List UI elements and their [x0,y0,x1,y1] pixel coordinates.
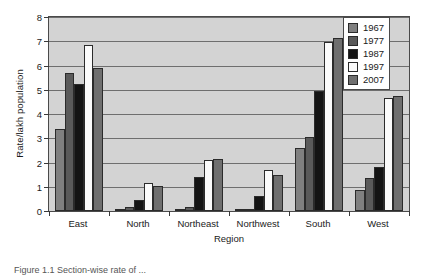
bar-northeast-1967 [175,209,185,211]
legend-label: 1977 [363,36,384,46]
x-axis-tick-label-east: East [68,218,87,229]
y-axis-tick-label: 3 [25,133,42,144]
gridline [49,114,409,115]
figure-caption: Figure 1.1 Section-wise rate of ... [14,265,146,275]
y-axis-tick-label: 4 [25,109,42,120]
y-axis-tick-mark [44,66,49,67]
legend-swatch-icon [348,75,358,85]
x-axis-tick-mark [49,211,50,216]
bar-south-1987 [314,91,324,211]
x-axis-title: Region [48,233,410,244]
legend-swatch-icon [348,49,358,59]
x-axis-tick-mark [349,211,350,216]
bar-east-1977 [65,73,75,211]
legend-label: 1967 [363,23,384,33]
bar-northeast-1977 [185,207,195,211]
gridline [49,138,409,139]
x-axis-tick-label-northeast: Northeast [177,218,218,229]
bar-north-1997 [144,183,154,211]
legend-swatch-icon [348,36,358,46]
bar-north-1977 [125,207,135,211]
y-axis-tick-mark [44,187,49,188]
legend-label: 1987 [363,49,384,59]
y-axis-tick-mark [44,138,49,139]
gridline [49,163,409,164]
bar-west-2007 [393,96,403,211]
y-axis-tick-label: 7 [25,36,42,47]
legend-item-1997: 1997 [348,60,384,73]
bar-northwest-1967 [235,209,245,211]
y-axis-tick-mark [44,90,49,91]
bar-south-2007 [333,38,343,211]
chart-figure: Rate/lakh population 012345678 Region 19… [0,0,431,277]
legend-item-1977: 1977 [348,34,384,47]
bar-west-1997 [384,98,394,211]
x-axis-tick-label-northwest: Northwest [237,218,280,229]
bar-northwest-1987 [254,196,264,211]
bar-northeast-1987 [194,177,204,211]
bar-south-1967 [295,148,305,211]
bar-west-1987 [374,167,384,211]
bar-northwest-1997 [264,170,274,211]
bar-north-1987 [134,200,144,211]
bar-northeast-1997 [204,160,214,211]
gridline [49,187,409,188]
bar-east-2007 [93,68,103,211]
legend-item-1967: 1967 [348,21,384,34]
y-axis-tick-label: 6 [25,60,42,71]
y-axis-tick-mark [44,17,49,18]
bar-south-1997 [324,42,334,211]
y-axis-tick-label: 2 [25,157,42,168]
bar-north-2007 [153,186,163,211]
legend-label: 1997 [363,62,384,72]
legend-swatch-icon [348,23,358,33]
legend-swatch-icon [348,62,358,72]
y-axis-tick-label: 1 [25,181,42,192]
x-axis-tick-label-north: North [126,218,149,229]
y-axis-tick-mark [44,41,49,42]
y-axis-tick-label: 0 [25,206,42,217]
bar-northwest-2007 [273,175,283,211]
y-axis-tick-mark [44,163,49,164]
x-axis-tick-mark [109,211,110,216]
bar-east-1967 [55,129,65,211]
bar-east-1987 [74,84,84,211]
x-axis-tick-label-south: South [306,218,331,229]
legend-label: 2007 [363,75,384,85]
y-axis-tick-label: 8 [25,12,42,23]
bar-north-1967 [115,209,125,211]
legend-item-1987: 1987 [348,47,384,60]
y-axis-tick-mark [44,114,49,115]
y-axis-title: Rate/lakh population [14,39,25,189]
x-axis-tick-mark [409,211,410,216]
bar-west-1967 [355,190,365,211]
x-axis-tick-mark [289,211,290,216]
y-axis-tick-label: 5 [25,84,42,95]
bar-northeast-2007 [213,159,223,211]
bar-west-1977 [365,178,375,211]
bar-east-1997 [84,45,94,211]
bar-northwest-1977 [245,209,255,211]
x-axis-tick-label-west: West [367,218,388,229]
chart-legend: 19671977198719972007 [343,17,390,90]
bar-south-1977 [305,137,315,211]
legend-item-2007: 2007 [348,73,384,86]
x-axis-tick-mark [229,211,230,216]
x-axis-tick-mark [169,211,170,216]
